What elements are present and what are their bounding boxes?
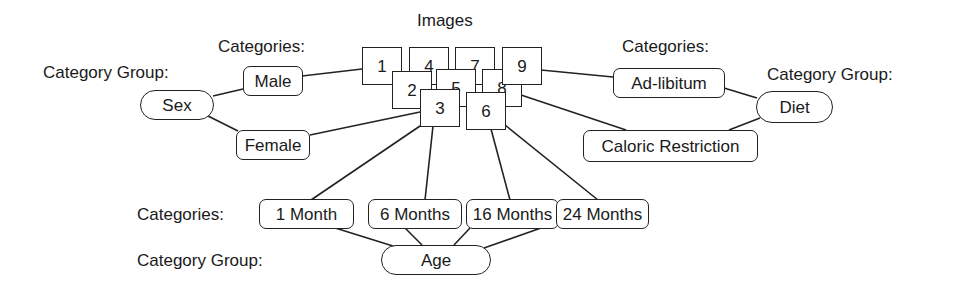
category-node-ad-libitum[interactable]: Ad-libitum <box>613 68 725 98</box>
category-node-1-month[interactable]: 1 Month <box>259 199 354 229</box>
group-node-diet[interactable]: Diet <box>756 91 833 123</box>
category-node-16-months[interactable]: 16 Months <box>466 199 559 229</box>
categories-label-diet: Categories: <box>622 38 709 55</box>
group-node-age[interactable]: Age <box>381 245 491 275</box>
category-node-male[interactable]: Male <box>243 66 303 96</box>
image-box-6[interactable]: 6 <box>466 92 506 130</box>
category-group-label-sex: Category Group: <box>43 64 169 81</box>
category-group-label-age: Category Group: <box>137 252 263 269</box>
category-node-female[interactable]: Female <box>236 130 310 160</box>
category-node-6-months[interactable]: 6 Months <box>368 199 462 229</box>
categories-label-sex: Categories: <box>218 38 305 55</box>
category-group-label-diet: Category Group: <box>767 66 893 83</box>
images-title: Images <box>417 12 473 29</box>
category-node-24-months[interactable]: 24 Months <box>556 199 649 229</box>
category-node-caloric-restriction[interactable]: Caloric Restriction <box>583 130 758 162</box>
group-node-sex[interactable]: Sex <box>140 90 214 120</box>
categories-label-age: Categories: <box>137 206 224 223</box>
image-box-3[interactable]: 3 <box>420 89 460 127</box>
image-box-9[interactable]: 9 <box>502 47 542 85</box>
